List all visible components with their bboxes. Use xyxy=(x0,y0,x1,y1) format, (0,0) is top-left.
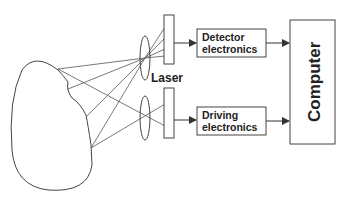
laser-label: Laser xyxy=(151,71,183,85)
laser-plate xyxy=(164,88,174,138)
svg-text:Detector: Detector xyxy=(202,31,245,43)
svg-text:electronics: electronics xyxy=(202,121,258,133)
laser-rays xyxy=(58,69,165,148)
computer-box: Computer xyxy=(290,20,335,144)
svg-text:Computer: Computer xyxy=(305,41,324,122)
detector-plate xyxy=(164,15,174,64)
svg-text:Driving: Driving xyxy=(202,109,238,121)
driving-electronics-box: Driving electronics xyxy=(197,107,266,135)
detector-electronics-box: Detector electronics xyxy=(197,29,266,57)
svg-text:electronics: electronics xyxy=(202,43,258,55)
laser-scanning-diagram: Laser Detector electronics Driving elect… xyxy=(0,0,340,201)
